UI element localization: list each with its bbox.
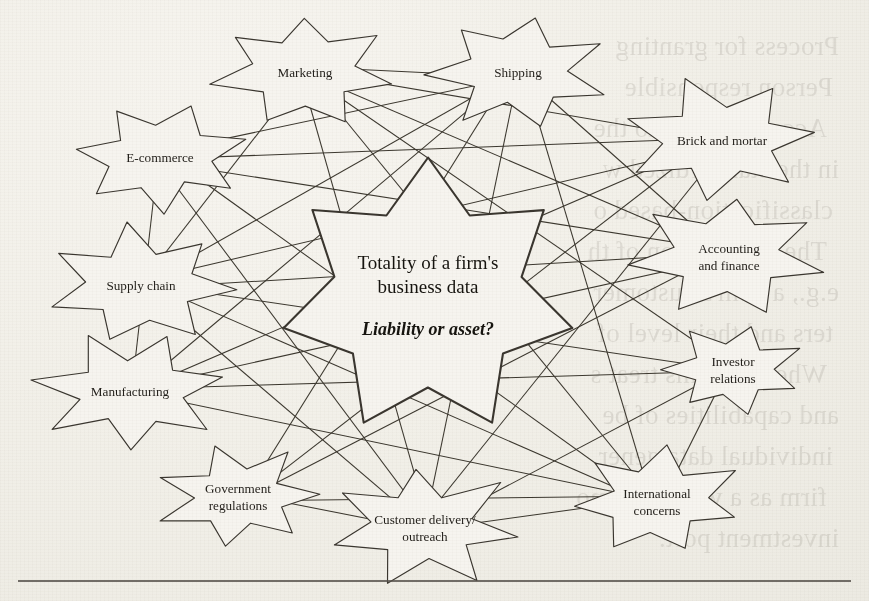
center-node-line2: business data [378,276,479,297]
node-label2-accounting: and finance [698,258,759,273]
node-label-investor: Investor [711,354,755,369]
node-international[interactable]: Internationalconcerns [575,445,736,548]
node-manufacturing[interactable]: Manufacturing [31,336,223,450]
star-network-diagram: MarketingShippingE-commerceBrick and mor… [0,0,869,601]
node-label2-investor: relations [710,371,755,386]
node-label2-government: regulations [209,498,268,513]
node-ecommerce[interactable]: E-commerce [76,106,245,214]
node-accounting[interactable]: Accountingand finance [628,199,824,312]
node-label-accounting: Accounting [698,241,760,256]
node-customer[interactable]: Customer delivery/outreach [334,469,518,583]
node-label-international: International [623,486,691,501]
edge-shipping-international [522,67,653,506]
node-label-brick: Brick and mortar [677,133,768,148]
node-label2-international: concerns [634,503,681,518]
node-investor[interactable]: Investorrelations [661,327,800,415]
center-node-line3: Liability or asset? [361,319,494,339]
node-label-government: Government [205,481,271,496]
figure-page: Process for grantingPerson responsibleAc… [0,0,869,601]
node-label-marketing: Marketing [278,65,333,80]
node-label-supply: Supply chain [106,278,176,293]
center-node-line1: Totality of a firm's [358,252,499,273]
node-marketing[interactable]: Marketing [210,18,392,121]
node-supply[interactable]: Supply chain [52,222,237,339]
node-label-ecommerce: E-commerce [126,150,194,165]
node-label-shipping: Shipping [494,65,542,80]
node-label-manufacturing: Manufacturing [91,384,170,399]
node-label2-customer: outreach [402,529,448,544]
node-label-customer: Customer delivery/ [374,512,476,527]
page-rule [18,580,851,582]
